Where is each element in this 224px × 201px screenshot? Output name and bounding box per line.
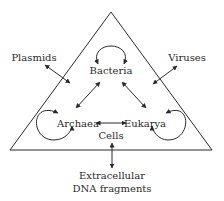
label-viruses: Viruses [167,52,206,63]
plasmids-arrow [45,65,70,83]
bacteria-self-loop [97,46,126,64]
label-plasmids: Plasmids [11,52,56,63]
label-bacteria: Bacteria [90,65,133,76]
label-cells: Cells [98,130,123,141]
label-eukarya: Eukarya [124,118,166,129]
label-dna-fragments: DNA fragments [72,183,151,194]
bacteria-archaea-arrow [76,82,100,108]
gene-transfer-diagram: Bacteria Archaea Eukarya Cells Plasmids … [0,0,224,201]
label-archaea: Archaea [56,118,99,129]
bacteria-eukarya-arrow [122,82,146,108]
label-extracellular: Extracellular [79,170,145,181]
